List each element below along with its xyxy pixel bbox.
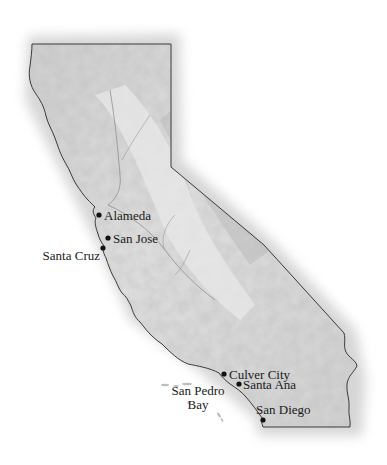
city-label: San Diego [256,402,311,417]
city-label: Santa Ana [243,377,296,392]
city-santa-ana[interactable]: Santa Ana [236,377,296,392]
water-label-line2: Bay [188,397,209,412]
city-label: Alameda [104,208,151,223]
water-label-line1: San Pedro [171,383,224,398]
city-santa-cruz[interactable]: Santa Cruz [43,245,106,263]
water-label-san-pedro-bay: San Pedro Bay [171,383,224,412]
city-alameda[interactable]: Alameda [96,208,151,223]
california-map: Alameda San Jose Santa Cruz Culver City … [0,0,387,465]
city-san-jose[interactable]: San Jose [105,231,158,246]
city-marker [236,381,241,386]
city-marker [96,212,101,217]
city-label: San Jose [113,231,158,246]
city-marker [105,235,110,240]
city-label: Santa Cruz [43,248,101,263]
city-marker [100,245,105,250]
city-marker [221,371,226,376]
city-marker [260,417,265,422]
